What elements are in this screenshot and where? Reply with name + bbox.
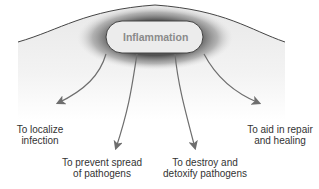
diagram-graphic [0,0,319,189]
outcome-destroy: To destroy and detoxify pathogens [161,157,249,179]
outcome-repair-line2: and healing [243,135,317,146]
inflammation-diagram: Inflammation To localize infection To pr… [0,0,319,189]
outcome-repair: To aid in repair and healing [243,124,317,146]
inflammation-label: Inflammation [123,31,188,43]
outcome-repair-line1: To aid in repair [243,124,317,135]
outcome-localize-line1: To localize [8,124,72,135]
outcome-localize: To localize infection [8,124,72,146]
outcome-prevent-spread-line1: To prevent spread [58,157,146,168]
outcome-destroy-line2: detoxify pathogens [161,168,249,179]
outcome-prevent-spread-line2: of pathogens [58,168,146,179]
outcome-localize-line2: infection [8,135,72,146]
outcome-destroy-line1: To destroy and [161,157,249,168]
outcome-prevent-spread: To prevent spread of pathogens [58,157,146,179]
